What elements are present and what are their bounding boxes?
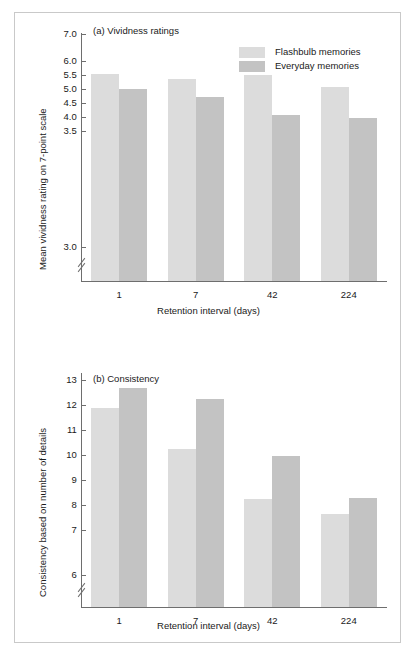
x-axis-tick-label: 1 xyxy=(94,289,144,300)
x-axis-line xyxy=(81,607,387,608)
bar-everyday-7 xyxy=(196,399,224,607)
y-axis-tick xyxy=(81,89,86,90)
y-axis-tick xyxy=(81,530,86,531)
bar-everyday-1 xyxy=(119,89,147,281)
y-axis-tick xyxy=(81,480,86,481)
y-axis-tick xyxy=(81,131,86,132)
bar-everyday-42 xyxy=(272,456,300,607)
y-axis-tick xyxy=(81,75,86,76)
bar-everyday-42 xyxy=(272,115,300,281)
y-axis-tick-label: 9 xyxy=(47,474,77,485)
y-axis-tick xyxy=(81,380,86,381)
bar-everyday-7 xyxy=(196,97,224,281)
bar-flashbulb-7 xyxy=(168,449,196,607)
y-axis-tick xyxy=(81,247,86,248)
bar-flashbulb-7 xyxy=(168,79,196,281)
y-axis-tick-label: 12 xyxy=(47,399,77,410)
bar-flashbulb-1 xyxy=(91,74,119,281)
x-axis-line xyxy=(81,281,387,282)
y-axis-tick xyxy=(81,61,86,62)
chart-panel-consistency: (b) Consistency Consistency based on num… xyxy=(15,335,402,642)
y-axis-tick-label: 4.0 xyxy=(47,111,77,122)
x-axis-tick-label: 224 xyxy=(324,289,374,300)
y-axis-tick xyxy=(81,575,86,576)
y-axis-tick-label: 10 xyxy=(47,449,77,460)
y-axis-tick xyxy=(81,405,86,406)
bar-flashbulb-1 xyxy=(91,408,119,608)
bar-everyday-224 xyxy=(349,498,377,608)
y-axis-tick-label: 6 xyxy=(47,569,77,580)
y-axis-tick-label: 7.0 xyxy=(47,28,77,39)
y-axis-line xyxy=(81,33,82,281)
chart-panel-vividness: (a) Vividness ratings Mean vividness rat… xyxy=(15,15,402,327)
y-axis-tick-label: 6.0 xyxy=(47,55,77,66)
y-axis-tick xyxy=(81,505,86,506)
y-axis-tick-label: 5.5 xyxy=(47,69,77,80)
bar-flashbulb-42 xyxy=(244,75,272,281)
bar-flashbulb-42 xyxy=(244,499,272,607)
panel-b-plot-area: 1312111098761742224 xyxy=(15,335,402,642)
bar-flashbulb-224 xyxy=(321,514,349,607)
y-axis-tick-label: 4.5 xyxy=(47,97,77,108)
bar-everyday-224 xyxy=(349,118,377,281)
y-axis-tick xyxy=(81,103,86,104)
y-axis-tick xyxy=(81,34,86,35)
y-axis-tick-label: 13 xyxy=(47,374,77,385)
y-axis-tick-label: 11 xyxy=(47,424,77,435)
y-axis-tick-label: 8 xyxy=(47,499,77,510)
y-axis-tick-label: 3.0 xyxy=(47,241,77,252)
bar-everyday-1 xyxy=(119,388,147,608)
y-axis-tick xyxy=(81,455,86,456)
panel-a-plot-area: 7.06.05.55.04.54.03.53.01742224 xyxy=(15,15,402,327)
x-axis-tick-label: 42 xyxy=(247,289,297,300)
figure-frame: (a) Vividness ratings Mean vividness rat… xyxy=(14,12,401,643)
y-axis-tick xyxy=(81,117,86,118)
bar-flashbulb-224 xyxy=(321,87,349,281)
x-axis-tick-label: 7 xyxy=(171,289,221,300)
y-axis-tick-label: 5.0 xyxy=(47,83,77,94)
panel-a-x-axis-title: Retention interval (days) xyxy=(15,305,402,316)
y-axis-tick-label: 3.5 xyxy=(47,125,77,136)
y-axis-tick-label: 7 xyxy=(47,524,77,535)
panel-b-x-axis-title: Retention interval (days) xyxy=(15,620,402,631)
y-axis-tick xyxy=(81,430,86,431)
y-axis-line xyxy=(81,373,82,607)
